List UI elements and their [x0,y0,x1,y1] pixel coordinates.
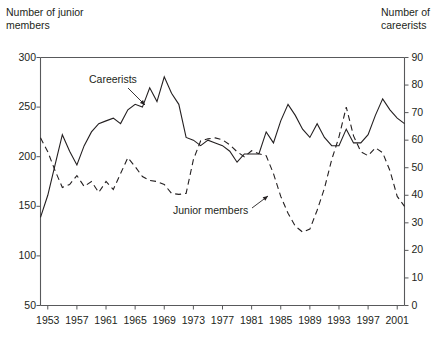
ytick-label-right-50: 50 [412,161,442,173]
ytick-label-left-100: 100 [4,249,36,261]
xtick-label-1965: 1965 [119,314,151,326]
ytick-label-right-40: 40 [412,188,442,200]
ytick-label-left-150: 150 [4,199,36,211]
annotation-arrows [128,88,268,208]
ytick-label-left-250: 250 [4,100,36,112]
ytick-label-right-30: 30 [412,216,442,228]
series-path-careerists [41,77,405,218]
ytick-label-right-20: 20 [412,243,442,255]
xtick-label-1957: 1957 [61,314,93,326]
xtick-label-1969: 1969 [148,314,180,326]
ytick-label-right-80: 80 [412,78,442,90]
xtick-label-1953: 1953 [32,314,64,326]
ytick-label-right-90: 90 [412,51,442,63]
junior-members-annotation-arrow-head [263,196,268,201]
ytick-label-right-60: 60 [412,133,442,145]
plot-svg [0,0,447,341]
ytick-label-left-200: 200 [4,150,36,162]
ytick-label-left-50: 50 [4,299,36,311]
ytick-label-right-0: 0 [412,299,442,311]
xtick-label-1993: 1993 [323,314,355,326]
xtick-label-1989: 1989 [294,314,326,326]
xtick-label-2001: 2001 [381,314,413,326]
ytick-label-left-300: 300 [4,51,36,63]
axis-ticks [37,58,409,310]
xtick-label-1961: 1961 [90,314,122,326]
axis-lines [41,58,405,306]
xtick-label-1973: 1973 [177,314,209,326]
chart-container: Number of junior members Number of caree… [0,0,447,341]
ytick-label-right-70: 70 [412,106,442,118]
xtick-label-1997: 1997 [352,314,384,326]
xtick-label-1981: 1981 [236,314,268,326]
series-label-careerists: Careerists [89,73,137,85]
ytick-label-right-10: 10 [412,271,442,283]
xtick-label-1985: 1985 [265,314,297,326]
series-label-junior-members: Junior members [173,204,248,216]
xtick-label-1977: 1977 [207,314,239,326]
